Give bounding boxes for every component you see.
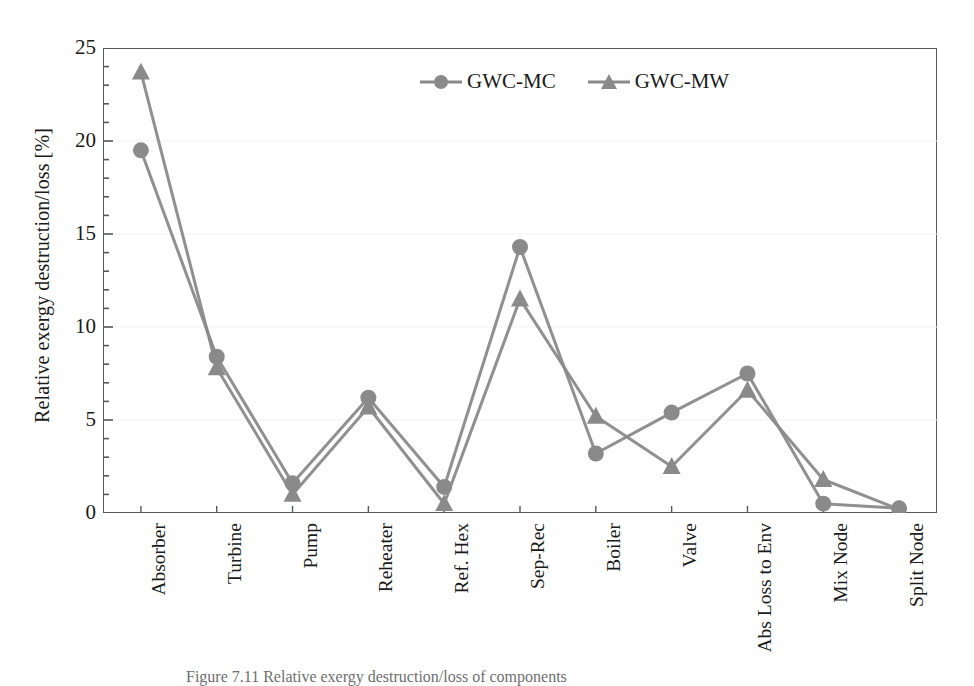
legend-entry-gwc-mw[interactable]: GWC-MW: [586, 69, 729, 94]
data-point-marker[interactable]: [132, 63, 150, 80]
x-tick-label: Boiler: [604, 523, 624, 572]
data-point-marker[interactable]: [512, 239, 528, 255]
x-tick-label: Absorber: [149, 523, 169, 596]
x-tick-label: Pump: [301, 523, 321, 569]
figure-caption: Figure 7.11 Relative exergy destruction/…: [186, 668, 886, 686]
series-line-gwc-mc: [141, 150, 899, 508]
data-point-marker[interactable]: [664, 405, 680, 421]
x-tick-label: Mix Node: [831, 523, 851, 603]
x-tick-label: Turbine: [225, 523, 245, 584]
legend-label: GWC-MW: [635, 69, 729, 94]
data-point-marker[interactable]: [739, 366, 755, 382]
y-tick-label: 15: [56, 223, 96, 244]
legend-marker: [434, 75, 448, 89]
x-tick-label: Split Node: [907, 523, 927, 607]
x-axis-tick-labels: AbsorberTurbinePumpReheaterRef. HexSep-R…: [103, 513, 937, 684]
legend-entry-gwc-mc[interactable]: GWC-MC: [418, 69, 556, 94]
x-tick-label: Abs Loss to Env: [755, 523, 775, 652]
data-point-marker[interactable]: [587, 407, 605, 424]
y-tick-label: 10: [56, 316, 96, 337]
y-axis-title: Relative exergy destruction/loss [%]: [31, 66, 54, 486]
data-point-marker[interactable]: [511, 290, 529, 307]
legend-circle-marker-icon: [418, 70, 464, 94]
y-tick-label: 20: [56, 130, 96, 151]
x-tick-label: Valve: [680, 523, 700, 567]
x-tick-label: Ref. Hex: [452, 523, 472, 593]
x-tick-label: Sep-Rec: [528, 523, 548, 589]
plot-area: [103, 48, 937, 513]
data-point-marker[interactable]: [815, 496, 831, 512]
chart-legend: GWC-MCGWC-MW: [418, 69, 729, 94]
y-tick-label: 5: [56, 409, 96, 430]
legend-triangle-marker-icon: [586, 70, 632, 94]
data-point-marker[interactable]: [133, 142, 149, 158]
x-tick-label: Reheater: [376, 523, 396, 592]
y-tick-label: 25: [56, 37, 96, 58]
y-axis-tick-labels: 0510152025: [52, 0, 96, 684]
data-point-marker[interactable]: [588, 445, 604, 461]
y-tick-label: 0: [56, 502, 96, 523]
legend-label: GWC-MC: [467, 69, 556, 94]
